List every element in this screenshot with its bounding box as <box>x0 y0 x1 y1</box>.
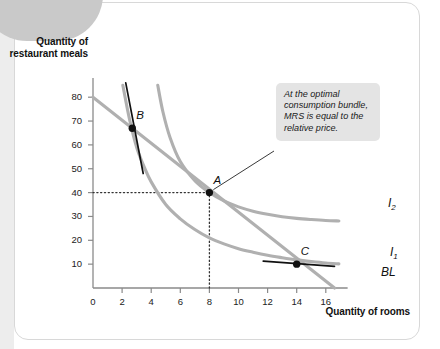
x-axis-tick-label: 14 <box>286 296 308 307</box>
x-axis-tick-label: 0 <box>82 296 104 307</box>
x-axis-tick-label: 4 <box>140 296 162 307</box>
data-point-B[interactable] <box>129 125 136 132</box>
chart-plot-area: Quantity of restaurant meals Quantity of… <box>0 0 440 349</box>
callout-leader-line <box>213 151 274 190</box>
figure-root: Quantity of restaurant meals Quantity of… <box>0 0 440 349</box>
y-axis-tick-label: 20 <box>60 234 82 245</box>
curve-label-BL: BL <box>381 265 396 279</box>
y-axis-tick-label: 80 <box>60 91 82 102</box>
y-axis-tick-label: 10 <box>60 258 82 269</box>
x-axis-tick-label: 8 <box>198 296 220 307</box>
data-point-C[interactable] <box>293 260 300 267</box>
y-axis-tick-label: 50 <box>60 163 82 174</box>
y-axis-tick-label: 70 <box>60 115 82 126</box>
y-axis-tick-label: 60 <box>60 139 82 150</box>
data-point-label-A: A <box>213 174 221 186</box>
mrs-callout-box: At the optimal consumption bundle, MRS i… <box>276 83 380 141</box>
data-point-A[interactable] <box>206 189 213 196</box>
x-axis-tick-label: 10 <box>228 296 250 307</box>
x-axis-tick-label: 2 <box>111 296 133 307</box>
curve-label-subscript-I1: 1 <box>393 252 397 261</box>
x-axis-title: Quantity of rooms <box>250 306 410 318</box>
x-axis-tick-label: 16 <box>315 296 337 307</box>
data-point-label-C: C <box>301 245 309 257</box>
curve-label-I2: I2 <box>388 196 396 212</box>
y-axis-tick-label: 30 <box>60 210 82 221</box>
data-point-label-B: B <box>136 109 144 121</box>
curve-label-I1: I1 <box>390 245 398 261</box>
y-axis-tick-label: 40 <box>60 187 82 198</box>
x-axis-tick-label: 12 <box>257 296 279 307</box>
y-axis-title: Quantity of restaurant meals <box>6 36 88 59</box>
x-axis-tick-label: 6 <box>169 296 191 307</box>
curve-label-subscript-I2: 2 <box>391 203 395 212</box>
